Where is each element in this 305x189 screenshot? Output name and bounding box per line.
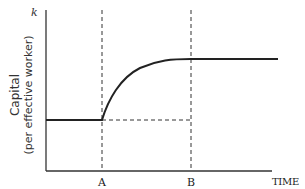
x-marker-label-b: B	[187, 176, 195, 189]
x-axis-label: TIME	[272, 176, 299, 187]
y-axis-label-sub: (per effective worker)	[22, 35, 35, 154]
y-axis-symbol: k	[31, 6, 38, 19]
y-axis-label-main: Capital	[9, 35, 22, 154]
diagram-canvas	[0, 0, 305, 189]
capital-curve	[46, 59, 278, 120]
y-axis-label: Capital (per effective worker)	[2, 30, 42, 160]
x-marker-label-a: A	[98, 176, 106, 189]
